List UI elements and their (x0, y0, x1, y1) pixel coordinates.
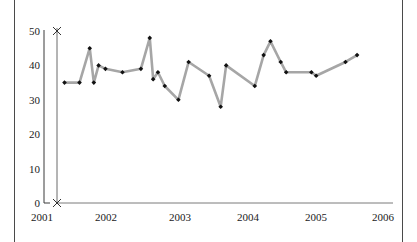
y-tick-label-40: 40 (20, 60, 40, 71)
data-point (62, 80, 67, 85)
x-tick-label-2005: 2005 (296, 212, 336, 223)
x-tick-label-2004: 2004 (228, 212, 268, 223)
x-tick-label-2003: 2003 (160, 212, 200, 223)
y-tick-label-10: 10 (20, 164, 40, 175)
chart-figure: 50 40 30 20 10 0 2001 2002 2003 2004 200… (0, 0, 417, 242)
data-markers (62, 36, 359, 109)
y-tick-label-30: 30 (20, 95, 40, 106)
x-tick-label-2006: 2006 (363, 212, 403, 223)
x-tick-label-2001: 2001 (22, 212, 62, 223)
y-tick-label-50: 50 (20, 26, 40, 37)
line-chart-plot (0, 0, 417, 242)
y-tick-label-20: 20 (20, 129, 40, 140)
y-axis-spine (44, 30, 50, 203)
x-tick-label-2002: 2002 (86, 212, 126, 223)
y-tick-label-0: 0 (20, 198, 40, 209)
